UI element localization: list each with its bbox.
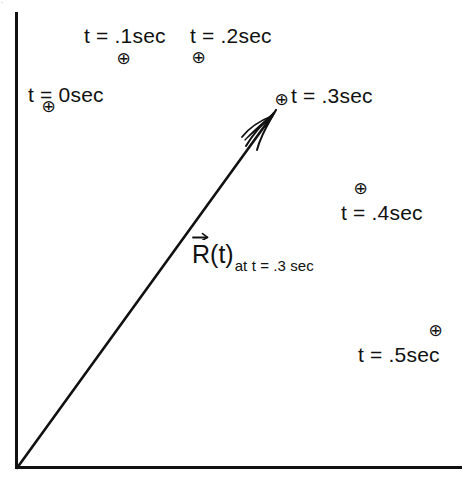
annotation-label-t-05sec: t = .5sec xyxy=(358,344,440,365)
marker-t-03sec: ⊕ xyxy=(274,92,289,107)
position-vector-figure: · t = 0sec ⊕ t = .1sec ⊕ t = .2sec ⊕ t =… xyxy=(0,0,468,478)
annotation-label-t-02sec: t = .2sec xyxy=(190,25,272,46)
annotation-t-01sec: t = .1sec xyxy=(84,25,166,46)
marker-t-05sec: ⊕ xyxy=(428,323,443,338)
position-vector-arrow xyxy=(0,0,468,478)
marker-t-01sec: ⊕ xyxy=(116,51,131,66)
annotation-label-t-0sec: t = 0sec xyxy=(28,84,104,105)
vector-shaft xyxy=(17,113,274,468)
vector-overbar-arrow-icon xyxy=(192,231,209,240)
annotation-label-t-04sec: t = .4sec xyxy=(341,202,423,223)
annotation-t-03sec: t = .3sec xyxy=(291,85,373,106)
marker-t-04sec: ⊕ xyxy=(353,181,368,196)
vector-label-subscript: at t = .3 sec xyxy=(235,257,314,274)
vector-label-main-text: R(t) xyxy=(192,240,234,268)
annotation-t-0sec: t = 0sec xyxy=(28,84,104,105)
annotation-t-05sec: t = .5sec xyxy=(358,344,440,365)
annotation-label-t-01sec: t = .1sec xyxy=(84,25,166,46)
marker-t-0sec: ⊕ xyxy=(41,99,56,114)
vector-label: R(t) at t = .3 sec xyxy=(192,240,313,269)
vector-label-main: R(t) xyxy=(192,240,234,269)
annotation-t-04sec: t = .4sec xyxy=(341,202,423,223)
marker-t-02sec: ⊕ xyxy=(191,50,206,65)
annotation-t-02sec: t = .2sec xyxy=(190,25,272,46)
annotation-label-t-03sec: t = .3sec xyxy=(291,85,373,106)
